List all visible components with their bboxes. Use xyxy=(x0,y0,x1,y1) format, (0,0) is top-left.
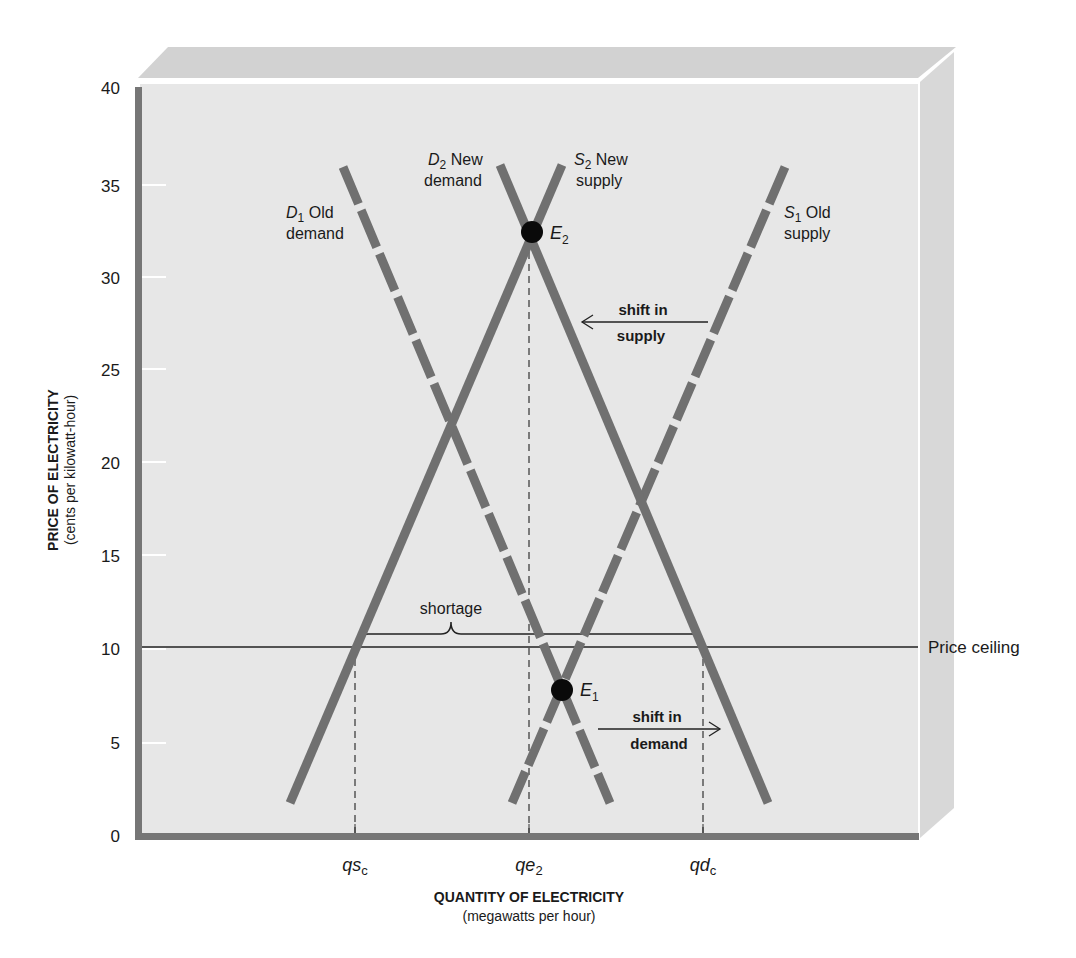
y-axis xyxy=(135,87,142,839)
x-tick-qd-c: qdc xyxy=(690,855,717,878)
y-axis-title-text: PRICE OF ELECTRICITY xyxy=(45,388,61,550)
y-tick-30: 30 xyxy=(101,269,120,288)
svg-text:demand: demand xyxy=(286,225,344,242)
svg-text:shift in: shift in xyxy=(618,301,667,318)
y-tick-40: 40 xyxy=(101,79,120,98)
svg-text:supply: supply xyxy=(784,225,830,242)
backdrop-top-face xyxy=(138,47,956,78)
x-axis-subtitle: (megawatts per hour) xyxy=(462,908,595,924)
y-tick-25: 25 xyxy=(101,361,120,380)
svg-text:demand: demand xyxy=(630,735,688,752)
svg-text:supply: supply xyxy=(576,172,622,189)
y-axis-subtitle: (cents per kilowatt-hour) xyxy=(62,395,78,545)
price-ceiling-label: Price ceiling xyxy=(928,638,1020,657)
y-tick-5: 5 xyxy=(111,734,120,753)
shortage-label: shortage xyxy=(420,600,482,617)
y-tick-35: 35 xyxy=(101,177,120,196)
y-tick-labels: 0 5 10 15 20 25 30 35 40 xyxy=(101,79,120,846)
e1-equilibrium-point xyxy=(551,679,573,701)
backdrop-right-face xyxy=(920,52,954,838)
y-tick-20: 20 xyxy=(101,454,120,473)
x-tick-qe-2: qe2 xyxy=(515,855,542,878)
svg-text:demand: demand xyxy=(424,172,482,189)
y-tick-10: 10 xyxy=(101,640,120,659)
y-tick-0: 0 xyxy=(111,827,120,846)
y-axis-title: PRICE OF ELECTRICITY (cents per kilowatt… xyxy=(45,388,78,550)
x-axis xyxy=(135,833,919,840)
e2-equilibrium-point xyxy=(521,221,543,243)
y-tick-15: 15 xyxy=(101,547,120,566)
svg-text:shift in: shift in xyxy=(632,708,681,725)
svg-text:supply: supply xyxy=(617,327,666,344)
x-tick-qs-c: qsc xyxy=(342,855,368,878)
supply-demand-chart: 0 5 10 15 20 25 30 35 40 PRICE OF ELECTR… xyxy=(0,0,1076,958)
x-axis-title: QUANTITY OF ELECTRICITY xyxy=(434,889,625,905)
